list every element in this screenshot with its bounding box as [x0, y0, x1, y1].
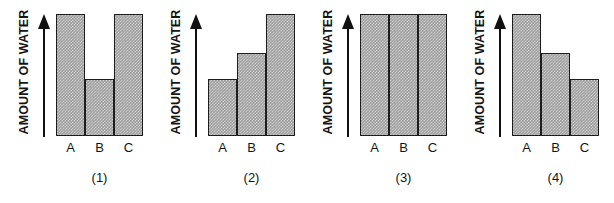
multi-panel-bar-chart-figure: AMOUNT OF WATER A B C (1) AMOUNT OF WATE… — [0, 0, 614, 203]
arrow-shaft — [499, 24, 501, 137]
y-axis-arrow-icon — [189, 14, 203, 137]
category-label-c: C — [114, 139, 143, 156]
chart-panel-4: AMOUNT OF WATER A B C (4) — [456, 0, 614, 203]
category-label-b: B — [389, 139, 418, 156]
y-axis-arrow-icon — [37, 14, 51, 137]
y-axis-title: AMOUNT OF WATER — [167, 1, 185, 143]
bar-a — [56, 14, 85, 136]
bar-c — [266, 14, 295, 136]
bar-c — [418, 14, 447, 136]
category-label-a: A — [360, 139, 389, 156]
category-label-a: A — [208, 139, 237, 156]
y-axis-arrow-icon — [493, 14, 507, 137]
bar-a — [360, 14, 389, 136]
bar-b — [541, 53, 570, 136]
plot-area — [208, 14, 295, 136]
bar-a — [208, 79, 237, 136]
y-axis-title: AMOUNT OF WATER — [15, 1, 33, 143]
category-label-c: C — [266, 139, 295, 156]
arrow-shaft — [43, 24, 45, 137]
category-label-b: B — [541, 139, 570, 156]
panel-caption: (2) — [208, 170, 295, 185]
panel-caption: (3) — [360, 170, 447, 185]
bar-c — [570, 79, 599, 136]
y-axis-title: AMOUNT OF WATER — [471, 1, 489, 143]
category-label-c: C — [418, 139, 447, 156]
bar-c — [114, 14, 143, 136]
bar-group — [56, 14, 143, 136]
category-labels: A B C — [512, 139, 599, 156]
bar-a — [512, 14, 541, 136]
arrow-shaft — [195, 24, 197, 137]
bar-group — [360, 14, 447, 136]
category-label-c: C — [570, 139, 599, 156]
category-labels: A B C — [208, 139, 295, 156]
chart-panel-1: AMOUNT OF WATER A B C (1) — [0, 0, 152, 203]
category-label-b: B — [237, 139, 266, 156]
plot-area — [360, 14, 447, 136]
plot-area — [56, 14, 143, 136]
category-label-b: B — [85, 139, 114, 156]
category-labels: A B C — [56, 139, 143, 156]
bar-b — [389, 14, 418, 136]
category-label-a: A — [512, 139, 541, 156]
bar-group — [512, 14, 599, 136]
category-labels: A B C — [360, 139, 447, 156]
chart-panel-3: AMOUNT OF WATER A B C (3) — [304, 0, 456, 203]
plot-area — [512, 14, 599, 136]
bar-b — [85, 79, 114, 136]
bar-b — [237, 53, 266, 136]
category-label-a: A — [56, 139, 85, 156]
chart-panel-2: AMOUNT OF WATER A B C (2) — [152, 0, 304, 203]
panel-caption: (1) — [56, 170, 143, 185]
y-axis-title: AMOUNT OF WATER — [319, 1, 337, 143]
bar-group — [208, 14, 295, 136]
arrow-shaft — [347, 24, 349, 137]
y-axis-arrow-icon — [341, 14, 355, 137]
panel-caption: (4) — [512, 170, 599, 185]
